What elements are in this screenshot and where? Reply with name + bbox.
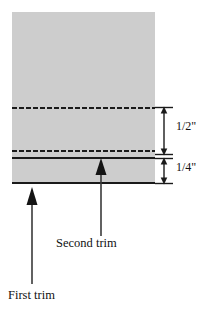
quarter-inch-dimension-label: 1/4" [176,160,196,175]
dimension-arrows-graphic [155,100,204,192]
upper-dashed-trim-line [12,107,155,109]
first-trim-label: First trim [8,288,55,303]
second-trim-solid-line [12,157,155,159]
lower-dashed-trim-line [12,150,155,152]
first-trim-leader-arrow [17,184,47,286]
second-trim-label: Second trim [56,236,117,251]
trim-allowance-diagram: 1/2" 1/4" Second trim First trim [0,0,204,314]
second-trim-leader-arrow [86,156,116,238]
dimension-column: 1/2" 1/4" [155,100,204,192]
half-inch-dimension-label: 1/2" [176,119,196,134]
